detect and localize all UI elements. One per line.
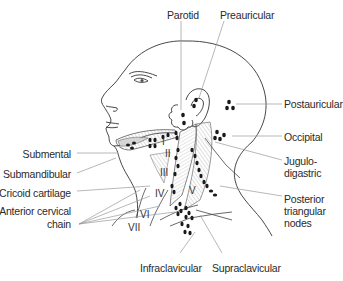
label-posterior-triangular-line2: triangular bbox=[284, 205, 326, 217]
label-cricoid-cartilage: Cricoid cartilage bbox=[0, 187, 71, 199]
label-jugulodigastric-line2: digastric bbox=[284, 167, 321, 179]
level-V: V bbox=[189, 185, 196, 196]
label-anterior-cervical-line1: Anterior cervical bbox=[0, 205, 71, 217]
label-supraclavicular: Supraclavicular bbox=[212, 262, 281, 274]
label-posterior-triangular-line1: Posterior bbox=[284, 193, 324, 205]
level-VII: VII bbox=[128, 222, 140, 233]
label-submandibular: Submandibular bbox=[3, 168, 71, 180]
label-preauricular: Preauricular bbox=[220, 9, 274, 21]
level-I: I bbox=[162, 136, 165, 147]
label-submental: Submental bbox=[23, 148, 71, 160]
label-posterior-triangular-line3: nodes bbox=[284, 217, 312, 229]
label-anterior-cervical-line2: chain bbox=[47, 218, 71, 230]
label-postauricular: Postauricular bbox=[284, 98, 343, 110]
level-IV: IV bbox=[155, 188, 164, 199]
level-II: II bbox=[165, 148, 171, 159]
label-occipital: Occipital bbox=[284, 131, 322, 143]
level-III: III bbox=[160, 167, 168, 178]
label-parotid: Parotid bbox=[167, 9, 199, 21]
label-jugulodigastric-line1: Jugulo- bbox=[284, 155, 317, 167]
label-infraclavicular: Infraclavicular bbox=[140, 262, 202, 274]
level-VI: VI bbox=[140, 209, 149, 220]
